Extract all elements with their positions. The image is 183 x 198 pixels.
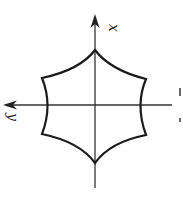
x-axis-label: x [106, 24, 122, 32]
cusped-curve [42, 50, 146, 163]
y-axis-label: y [5, 112, 21, 122]
diagram-canvas: x y [0, 0, 183, 198]
diagram: x y [0, 0, 183, 198]
